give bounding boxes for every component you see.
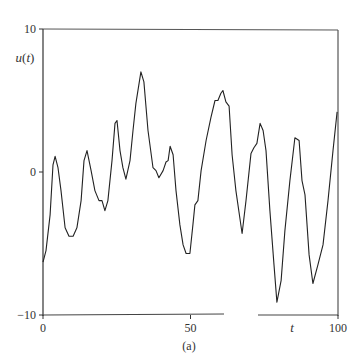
figure-caption: (a)	[182, 339, 195, 353]
bottom-axis-line-left	[43, 314, 224, 315]
x-tick-label: 0	[40, 321, 46, 335]
top-axis-line	[43, 29, 338, 30]
y-tick-label: 0	[30, 165, 36, 179]
data-line-u-of-t	[43, 72, 337, 302]
y-tick-label: 10	[24, 22, 36, 36]
plot-frame	[43, 29, 338, 316]
y-tick-label: −10	[17, 308, 36, 322]
y-axis-label: u(t)	[16, 50, 35, 65]
axis-ticks	[39, 29, 338, 319]
line-chart: −10010050100u(t)t (a)	[0, 0, 358, 363]
x-tick-label: 100	[329, 321, 347, 335]
x-axis-label: t	[290, 320, 294, 335]
axis-labels: −10010050100u(t)t	[16, 22, 347, 335]
x-tick-label: 50	[185, 321, 197, 335]
